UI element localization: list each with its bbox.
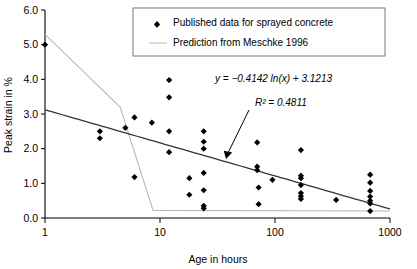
y-axis-tick-labels: 0.01.02.03.04.05.06.0 (23, 4, 38, 224)
data-point-marker (367, 172, 373, 178)
data-point-marker (333, 197, 339, 203)
annotation-group: y = −0.4142 ln(x) + 3.1213 R² = 0.4811 (214, 73, 332, 159)
legend: Published data for sprayed concrete Pred… (133, 8, 385, 56)
regression-trendline (45, 110, 390, 209)
data-point-marker (201, 139, 207, 145)
data-point-marker (131, 174, 137, 180)
data-point-marker (166, 128, 172, 134)
data-point-marker (201, 170, 207, 176)
y-tick-label: 3.0 (23, 108, 38, 120)
chart-figure: 0.01.02.03.04.05.06.0 1101001000 Peak st… (0, 0, 417, 269)
data-point-marker (186, 192, 192, 198)
y-tick-label: 6.0 (23, 4, 38, 16)
data-point-marker (254, 167, 260, 173)
annotation-arrow-head-icon (224, 151, 232, 159)
y-tick-label: 5.0 (23, 38, 38, 50)
annotation-r-squared: R² = 0.4811 (255, 97, 307, 108)
prediction-curve-meschke (45, 34, 390, 211)
y-tick-label: 2.0 (23, 142, 38, 154)
data-point-marker (254, 139, 260, 145)
data-point-marker (97, 128, 103, 134)
x-tick-label: 100 (266, 226, 284, 238)
data-point-marker (201, 128, 207, 134)
data-point-marker (201, 187, 207, 193)
data-point-group (42, 42, 373, 215)
y-tick-label: 1.0 (23, 177, 38, 189)
data-point-marker (166, 94, 172, 100)
data-point-marker (42, 42, 48, 48)
data-point-marker (255, 184, 261, 190)
data-point-marker (166, 149, 172, 155)
x-tick-label: 1 (42, 226, 48, 238)
x-axis-title: Age in hours (189, 253, 248, 265)
legend-label-meschke-prediction: Prediction from Meschke 1996 (173, 37, 309, 48)
legend-border (133, 8, 385, 56)
data-point-marker (201, 146, 207, 152)
data-point-marker (367, 180, 373, 186)
y-axis-title: Peak strain in % (2, 77, 14, 153)
x-tick-label: 1000 (378, 226, 402, 238)
data-point-marker (255, 201, 261, 207)
y-tick-label: 0.0 (23, 212, 38, 224)
data-point-marker (269, 177, 275, 183)
data-point-marker (131, 114, 137, 120)
annotation-equation: y = −0.4142 ln(x) + 3.1213 (214, 73, 332, 84)
annotation-arrow-line (228, 110, 249, 153)
data-point-marker (97, 135, 103, 141)
data-point-marker (149, 120, 155, 126)
data-point-marker (367, 188, 373, 194)
x-axis-tick-labels: 1101001000 (42, 226, 402, 238)
legend-label-published-data: Published data for sprayed concrete (173, 17, 334, 28)
y-tick-label: 4.0 (23, 73, 38, 85)
meschke-prediction-line (45, 34, 390, 211)
data-point-marker (186, 175, 192, 181)
x-tick-label: 10 (154, 226, 166, 238)
data-point-marker (367, 208, 373, 214)
data-point-marker (298, 147, 304, 153)
data-point-marker (166, 77, 172, 83)
scatter-plot: 0.01.02.03.04.05.06.0 1101001000 Peak st… (0, 0, 417, 269)
trendline-path (45, 110, 390, 209)
